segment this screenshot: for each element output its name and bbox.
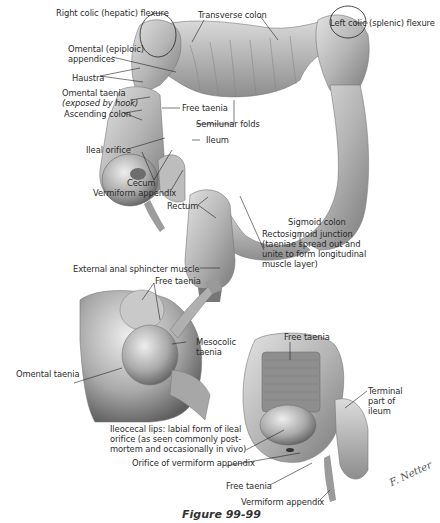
label-cecum: Cecum: [127, 178, 156, 188]
label-mesocolic-taenia: Mesocolic taenia: [196, 337, 241, 357]
opened-cecum: [243, 333, 368, 502]
label-terminal-ileum: Terminal part of ileum: [368, 386, 413, 416]
label-left-colic-flexure: Left colic (splenic) flexure: [330, 18, 435, 28]
label-vermiform-appendix-br: Vermiform appendix: [241, 497, 324, 507]
label-sigmoid-colon: Sigmoid colon: [288, 217, 346, 227]
label-free-taenia-bl: Free taenia: [155, 276, 201, 286]
label-exposed-by-hook: (exposed by hook): [62, 98, 138, 108]
label-right-colic-flexure: Right colic (hepatic) flexure: [56, 8, 169, 18]
label-omental-taenia: Omental taenia: [62, 88, 126, 98]
label-ileal-orifice: Ileal orifice: [86, 145, 131, 155]
label-free-taenia: Free taenia: [182, 103, 228, 113]
figure-caption: Figure 99-99: [182, 508, 261, 521]
label-transverse-colon: Transverse colon: [198, 10, 267, 20]
label-orifice-vermiform-appendix: Orifice of vermiform appendix: [132, 458, 255, 468]
label-omental-appendices-2: appendices: [68, 54, 115, 64]
label-omental-taenia-bl: Omental taenia: [16, 369, 80, 379]
label-rectum: Rectum: [167, 201, 198, 211]
label-ileocecal-lips: Ileocecal lips: labial form of ileal ori…: [110, 424, 258, 454]
label-omental-appendices: Omental (epiploic): [68, 44, 144, 54]
label-free-taenia-br-bottom: Free taenia: [226, 481, 272, 491]
label-free-taenia-br-top: Free taenia: [284, 332, 330, 342]
label-ileum: Ileum: [206, 135, 229, 145]
label-vermiform-appendix: Vermiform appendix: [93, 188, 176, 198]
label-rectosigmoid-junction: Rectosigmoid junction (taeniae spread ou…: [262, 229, 372, 269]
label-haustra: Haustra: [72, 73, 104, 83]
label-ascending-colon: Ascending colon: [64, 109, 131, 119]
label-external-anal-sphincter: External anal sphincter muscle: [73, 264, 200, 274]
label-semilunar-folds: Semilunar folds: [196, 119, 260, 129]
